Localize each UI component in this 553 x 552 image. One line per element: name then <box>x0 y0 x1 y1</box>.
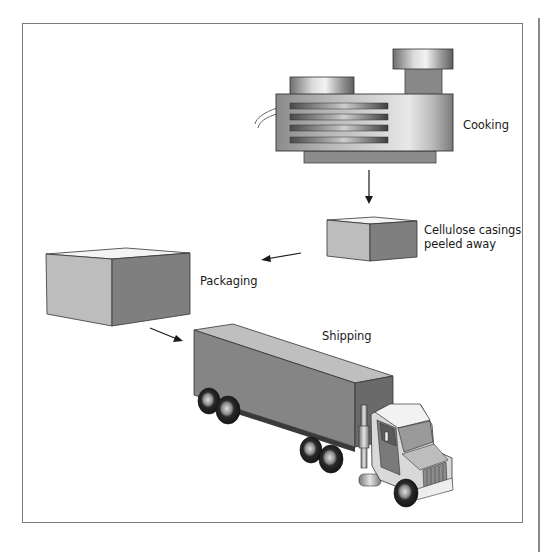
cooking-machine-icon <box>255 49 453 163</box>
arrow-left-icon <box>261 253 301 262</box>
semi-truck-icon <box>194 324 453 507</box>
casing-box-icon <box>327 217 417 261</box>
arrow-diagonal-icon <box>150 328 183 342</box>
arrow-down-icon <box>365 170 373 204</box>
label-cooking: Cooking <box>463 118 509 132</box>
label-packaging: Packaging <box>200 274 257 288</box>
process-illustration <box>0 0 553 552</box>
packaging-box-icon <box>46 248 190 326</box>
label-casings-line2: peeled away <box>424 237 496 251</box>
label-shipping: Shipping <box>322 329 371 343</box>
label-casings-line1: Cellulose casings <box>424 223 521 237</box>
